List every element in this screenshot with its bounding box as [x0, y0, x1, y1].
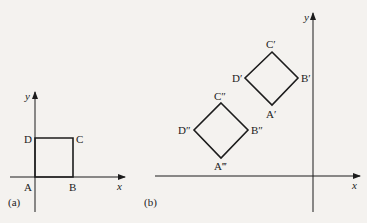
vertex-d2-label: D″: [178, 124, 191, 136]
vertex-a1-label: A′: [266, 108, 276, 120]
vertex-c-label: C: [76, 133, 83, 145]
square-a1b1c1d1: [245, 52, 298, 105]
vertex-c2-label: C″: [214, 90, 226, 102]
x-axis-label-b: x: [351, 179, 357, 191]
panel-b-caption: (b): [144, 196, 157, 209]
panel-a-caption: (a): [8, 196, 21, 209]
x-axis-label-a: x: [116, 180, 122, 192]
y-axis-label-a: y: [24, 90, 30, 102]
y-axis-label-b: y: [303, 11, 309, 23]
panel-a: y x D C A B (a): [8, 90, 125, 212]
vertex-b2-label: B″: [251, 124, 263, 136]
vertex-d1-label: D′: [232, 72, 242, 84]
vertex-b-label: B: [69, 181, 76, 193]
vertex-a-label: A: [24, 181, 32, 193]
vertex-b1-label: B′: [301, 72, 311, 84]
square-a2b2c2d2: [194, 103, 248, 158]
panel-b: y x C′ D′ B′ A′ C″ D″ B″ A‴ (b): [144, 11, 360, 212]
transformation-figure: y x D C A B (a) y x C′ D′ B′ A′ C″ D″ B″…: [0, 0, 367, 223]
vertex-c1-label: C′: [266, 38, 276, 50]
vertex-a2-label: A‴: [214, 160, 227, 172]
square-abcd: [35, 138, 73, 177]
vertex-d-label: D: [24, 133, 32, 145]
figure-canvas: y x D C A B (a) y x C′ D′ B′ A′ C″ D″ B″…: [0, 0, 367, 223]
